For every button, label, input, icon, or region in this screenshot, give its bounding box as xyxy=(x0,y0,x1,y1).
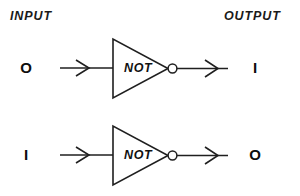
output-value-row-0: I xyxy=(243,59,267,76)
gate-vector-layer xyxy=(0,0,300,196)
inverter-bubble-row-1 xyxy=(168,151,177,160)
inverter-truth-diagram: INPUT OUTPUT O NOT I I NOT O xyxy=(0,0,300,196)
inverter-bubble-row-0 xyxy=(168,64,177,73)
input-value-row-0: O xyxy=(14,59,38,76)
gate-label-row-0: NOT xyxy=(124,61,152,75)
input-value-row-1: I xyxy=(14,146,38,163)
gate-label-row-1: NOT xyxy=(124,148,152,162)
output-value-row-1: O xyxy=(243,146,267,163)
